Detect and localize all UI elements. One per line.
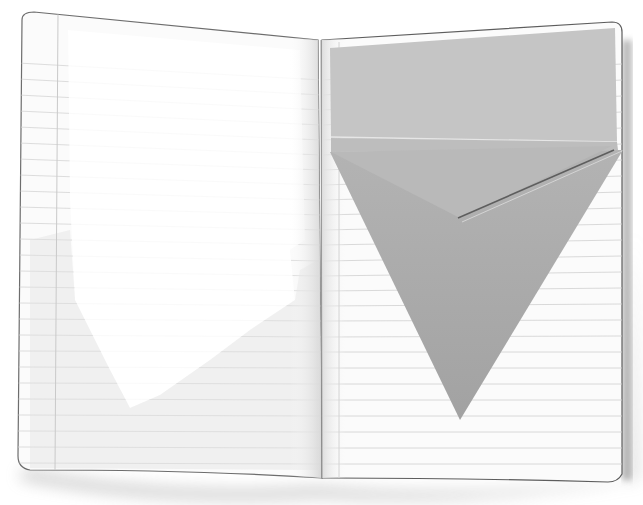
notebook-illustration — [0, 0, 643, 505]
pocket-top-band — [330, 28, 617, 142]
left-notebook-page — [18, 12, 322, 480]
notebook-photo — [0, 0, 643, 505]
